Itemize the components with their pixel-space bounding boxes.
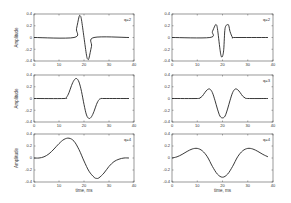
y-tick-label: 0.2 [164,23,170,28]
x-tick-label: 0 [171,183,174,188]
waveform-line [34,138,129,178]
x-tick-label: 40 [271,183,276,188]
y-tick-label: 0.4 [26,72,32,77]
x-tick-label: 40 [132,62,137,67]
y-tick-label: -0.2 [25,167,33,172]
x-tick-label: 40 [132,183,137,188]
x-tick-label: 10 [57,183,62,188]
panel-label: q=2 [263,17,271,22]
y-tick-label: -0.2 [163,167,171,172]
y-tick-label: -0.4 [163,119,171,124]
axes-frame [172,134,273,182]
x-tick-label: 10 [195,62,200,67]
y-tick-label: 0.4 [164,131,170,136]
y-tick-label: -0.4 [25,179,33,184]
x-tick-label: 20 [220,62,225,67]
x-tick-label: 20 [82,62,87,67]
x-axis-label: time, ms [214,188,232,193]
x-tick-label: 0 [33,123,36,128]
x-tick-label: 30 [246,183,251,188]
x-tick-label: 30 [246,62,251,67]
x-tick-label: 30 [107,183,112,188]
y-tick-label: 0.4 [26,131,32,136]
y-tick-label: 0 [30,35,33,40]
x-tick-label: 10 [195,123,200,128]
y-tick-label: -0.2 [163,108,171,113]
panel-label: q=2 [124,17,132,22]
y-axis-label: Amplitude [14,148,19,169]
x-tick-label: 20 [82,123,87,128]
y-tick-label: 0.2 [26,143,32,148]
y-tick-label: 0 [168,96,171,101]
y-tick-label: 0.2 [26,84,32,89]
waveform-line [34,78,129,118]
y-tick-label: -0.4 [25,58,33,63]
y-tick-label: 0.2 [26,23,32,28]
y-tick-label: -0.2 [163,47,171,52]
y-tick-label: -0.4 [25,119,33,124]
panel-label: q=4 [124,137,132,142]
x-tick-label: 30 [246,123,251,128]
x-tick-label: 0 [33,62,36,67]
y-tick-label: 0 [168,35,171,40]
x-tick-label: 40 [132,123,137,128]
y-tick-label: 0.2 [164,143,170,148]
waveform-line [172,89,268,118]
waveform-line [172,148,268,177]
x-tick-label: 10 [195,183,200,188]
x-tick-label: 40 [271,123,276,128]
y-axis-label: Amplitude [14,27,19,48]
y-tick-label: 0.4 [164,72,170,77]
x-tick-label: 30 [107,62,112,67]
y-tick-label: -0.2 [25,47,33,52]
panel-label: q=4 [263,137,271,142]
x-tick-label: 0 [33,183,36,188]
waveform-line [172,24,268,57]
x-tick-label: 30 [107,123,112,128]
y-tick-label: -0.4 [163,58,171,63]
y-tick-label: 0 [30,155,33,160]
x-tick-label: 40 [271,62,276,67]
y-axis-label: Amplitude [14,88,19,109]
waveform-line [34,15,129,59]
axes-frame [34,134,134,182]
x-tick-label: 0 [171,123,174,128]
x-tick-label: 0 [171,62,174,67]
y-tick-label: 0.2 [164,84,170,89]
y-tick-label: 0 [30,96,33,101]
x-tick-label: 10 [57,123,62,128]
y-tick-label: 0.4 [164,11,170,16]
y-tick-label: -0.2 [25,108,33,113]
y-tick-label: 0 [168,155,171,160]
y-tick-label: 0.4 [26,11,32,16]
panel-label: q=3 [263,78,271,83]
y-tick-label: -0.4 [163,179,171,184]
x-axis-label: time, ms [75,188,93,193]
x-tick-label: 10 [57,62,62,67]
x-tick-label: 20 [220,123,225,128]
figure: 0.40.20-0.2-0.4010203040q=2Amplitude0.40… [0,0,291,203]
